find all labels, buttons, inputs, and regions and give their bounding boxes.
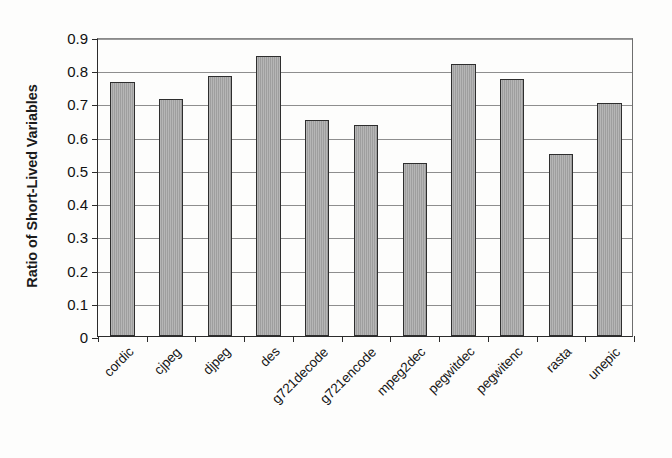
bar <box>597 103 621 336</box>
y-axis-tick-labels: 0.90.80.70.60.50.40.30.20.10 <box>36 38 88 337</box>
x-axis-tick-label: djpeg <box>200 344 233 377</box>
y-axis-tick-label: 0.4 <box>36 196 88 213</box>
x-axis-tick-label: unepic <box>585 344 623 382</box>
y-axis-tick-label: 0.8 <box>36 63 88 80</box>
bar <box>403 163 427 336</box>
x-axis-tick-label: rasta <box>543 344 574 375</box>
y-axis-tick-label: 0 <box>36 329 88 346</box>
x-axis-tick-label: pegwitdec <box>425 344 478 397</box>
bar <box>110 82 134 336</box>
x-axis-tick <box>634 336 635 342</box>
bar-chart-figure: Ratio of Short-Lived Variables 0.90.80.7… <box>0 0 672 458</box>
x-axis-tick-label: cordic <box>101 344 136 379</box>
y-axis-tick-label: 0.1 <box>36 295 88 312</box>
y-axis-tick-label: 0.9 <box>36 30 88 47</box>
bar <box>451 64 475 336</box>
x-axis-tick-label: pegwitenc <box>473 344 526 397</box>
y-axis-tick-label: 0.2 <box>36 262 88 279</box>
y-axis-tick-label: 0.3 <box>36 229 88 246</box>
bar <box>305 120 329 336</box>
x-axis-tick-label: des <box>257 344 283 370</box>
x-axis-tick-labels: cordiccjpegdjpegdesg721decodeg721encodem… <box>97 340 633 455</box>
x-axis-tick-label: mpeg2dec <box>374 344 428 398</box>
bar <box>549 154 573 336</box>
bar <box>256 56 280 336</box>
bar <box>208 76 232 336</box>
bar <box>500 79 524 336</box>
y-axis-tick-label: 0.6 <box>36 129 88 146</box>
bar-series <box>98 39 632 336</box>
x-axis-tick-label: cjpeg <box>151 344 184 377</box>
bar <box>354 125 378 336</box>
plot-area <box>97 38 633 337</box>
y-axis-tick-label: 0.7 <box>36 96 88 113</box>
bar <box>159 99 183 336</box>
y-axis-tick-label: 0.5 <box>36 162 88 179</box>
